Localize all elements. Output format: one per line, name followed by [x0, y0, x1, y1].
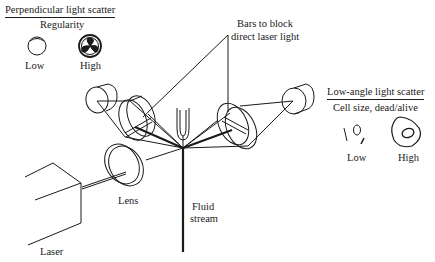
- scatter-rays-right: [183, 113, 248, 148]
- regularity-low-icon: [28, 37, 46, 55]
- perpendicular-low-label: Low: [25, 60, 44, 72]
- bars-pointer-lines: [143, 35, 228, 117]
- fluid-stream: [177, 108, 189, 252]
- low-angle-high-label: High: [398, 152, 419, 164]
- low-angle-detector-icon: [240, 84, 314, 146]
- left-blocking-lens-icon: [114, 92, 161, 144]
- bars-label-line1: Bars to block: [237, 18, 293, 30]
- scatter-rays-left: [125, 101, 183, 148]
- right-blocking-lens-icon: [211, 98, 263, 154]
- low-angle-subtitle: Cell size, dead/alive: [333, 102, 418, 114]
- low-angle-title: Low-angle light scatter: [327, 86, 424, 100]
- perpendicular-subtitle: Regularity: [40, 19, 84, 31]
- perpendicular-title: Perpendicular light scatter: [5, 4, 115, 18]
- lens-label: Lens: [118, 195, 138, 207]
- lens-icon: [98, 138, 151, 192]
- flow-cytometry-diagram: Perpendicular light scatter Regularity L…: [0, 0, 435, 262]
- regularity-high-icon: [79, 35, 101, 57]
- laser-icon: [25, 163, 81, 245]
- cell-size-high-icon: [392, 117, 421, 147]
- perpendicular-high-label: High: [80, 60, 101, 72]
- fluid-label-line2: stream: [190, 213, 218, 225]
- cell-size-low-icon: [344, 125, 364, 144]
- bars-label-line2: direct laser light: [231, 31, 299, 43]
- laser-beam: [82, 148, 183, 189]
- laser-label: Laser: [40, 246, 63, 258]
- fluid-label-line1: Fluid: [192, 201, 214, 213]
- low-angle-low-label: Low: [347, 152, 366, 164]
